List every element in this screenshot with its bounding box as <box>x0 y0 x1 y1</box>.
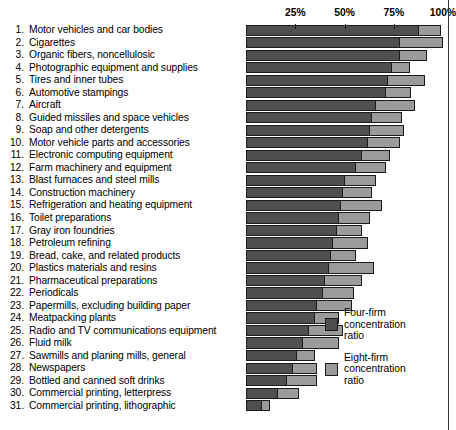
category-label: Farm machinery and equipment <box>29 162 172 174</box>
category-number: 13. <box>0 174 29 186</box>
category-label: Construction machinery <box>29 187 135 199</box>
bar-four-firm <box>246 400 262 411</box>
category-number: 24. <box>0 312 29 324</box>
category-number: 27. <box>0 350 29 362</box>
category-number: 16. <box>0 212 29 224</box>
bar-four-firm <box>246 87 386 98</box>
bar-row <box>246 249 443 262</box>
category-label-row: 28.Newspapers <box>0 362 240 375</box>
category-label-row: 23.Papermills, excluding building paper <box>0 299 240 312</box>
bar-four-firm <box>246 363 293 374</box>
bar-four-firm <box>246 275 325 286</box>
category-label-row: 16.Toilet preparations <box>0 212 240 225</box>
category-number: 26. <box>0 337 29 349</box>
bar-row <box>246 124 443 137</box>
bar-four-firm <box>246 75 388 86</box>
category-number: 30. <box>0 387 29 399</box>
bar-four-firm <box>246 287 323 298</box>
category-label-row: 20.Plastics materials and resins <box>0 262 240 275</box>
category-label: Bread, cake, and related products <box>29 250 180 262</box>
bar-row <box>246 212 443 225</box>
category-label: Motor vehicles and car bodies <box>29 24 163 36</box>
bar-row <box>246 74 443 87</box>
category-label-row: 19.Bread, cake, and related products <box>0 249 240 262</box>
legend-label: Four-firm concentration ratio <box>344 307 406 342</box>
bar-four-firm <box>246 337 303 348</box>
category-number: 18. <box>0 237 29 249</box>
bar-row <box>246 49 443 62</box>
category-number: 3. <box>0 49 29 61</box>
category-number: 1. <box>0 24 29 36</box>
bar-four-firm <box>246 100 376 111</box>
bar-four-firm <box>246 162 356 173</box>
category-label-row: 6.Automotive stampings <box>0 87 240 100</box>
category-label: Commercial printing, letterpress <box>29 387 171 399</box>
category-label-row: 22.Periodicals <box>0 287 240 300</box>
category-label: Gray iron foundries <box>29 225 115 237</box>
category-label-row: 13.Blast furnaces and steel mills <box>0 174 240 187</box>
bar-four-firm <box>246 50 400 61</box>
bar-four-firm <box>246 212 339 223</box>
axis-tick-label: 100% <box>430 6 456 19</box>
category-label: Blast furnaces and steel mills <box>29 174 159 186</box>
category-label: Motor vehicle parts and accessories <box>29 137 190 149</box>
category-number: 2. <box>0 37 29 49</box>
category-label: Periodicals <box>29 287 78 299</box>
bar-four-firm <box>246 187 343 198</box>
category-number: 5. <box>0 74 29 86</box>
category-label-row: 15.Refrigeration and heating equipment <box>0 199 240 212</box>
bar-row <box>246 399 443 412</box>
axis-tick-label: 75% <box>383 6 404 19</box>
bar-four-firm <box>246 62 392 73</box>
bar-four-firm <box>246 388 278 399</box>
category-label: Sawmills and planing mills, general <box>29 350 186 362</box>
category-label-row: 4.Photographic equipment and supplies <box>0 62 240 75</box>
category-label-row: 8.Guided missiles and space vehicles <box>0 112 240 125</box>
bar-four-firm <box>246 37 400 48</box>
category-label: Soap and other detergents <box>29 124 148 136</box>
bar-row <box>246 237 443 250</box>
category-number: 21. <box>0 275 29 287</box>
bar-row <box>246 199 443 212</box>
category-number: 15. <box>0 199 29 211</box>
category-number: 28. <box>0 362 29 374</box>
category-label-row: 18.Petroleum refining <box>0 237 240 250</box>
category-number: 8. <box>0 112 29 124</box>
category-number: 12. <box>0 162 29 174</box>
bar-row <box>246 87 443 100</box>
category-label: Plastics materials and resins <box>29 262 157 274</box>
category-label: Toilet preparations <box>29 212 111 224</box>
category-label: Cigarettes <box>29 37 75 49</box>
category-label-row: 9.Soap and other detergents <box>0 124 240 137</box>
category-label: Guided missiles and space vehicles <box>29 112 189 124</box>
legend-entry: Four-firm concentration ratio <box>325 307 445 342</box>
axis-tick-mark <box>295 24 296 29</box>
category-label: Automotive stampings <box>29 87 128 99</box>
x-axis: 25%50%75%100% <box>0 6 455 22</box>
category-label: Newspapers <box>29 362 85 374</box>
category-label-row: 5.Tires and inner tubes <box>0 74 240 87</box>
category-number: 7. <box>0 99 29 111</box>
category-label-row: 21.Pharmaceutical preparations <box>0 274 240 287</box>
category-number: 20. <box>0 262 29 274</box>
category-label-row: 27.Sawmills and planing mills, general <box>0 349 240 362</box>
bar-four-firm <box>246 350 297 361</box>
category-label: Fluid milk <box>29 337 71 349</box>
category-number: 31. <box>0 400 29 412</box>
chart-legend: Four-firm concentration ratioEight-firm … <box>325 307 445 397</box>
category-label-row: 24.Meatpacking plants <box>0 312 240 325</box>
bar-row <box>246 62 443 75</box>
bar-row <box>246 187 443 200</box>
category-number: 11. <box>0 149 29 161</box>
category-label-row: 7.Aircraft <box>0 99 240 112</box>
legend-entry: Eight-firm concentration ratio <box>325 352 445 387</box>
category-label: Pharmaceutical preparations <box>29 275 157 287</box>
bar-four-firm <box>246 262 329 273</box>
category-label-row: 1.Motor vehicles and car bodies <box>0 24 240 37</box>
category-number: 25. <box>0 325 29 337</box>
bar-four-firm <box>246 200 341 211</box>
bar-row <box>246 137 443 150</box>
category-number: 14. <box>0 187 29 199</box>
axis-tick-mark <box>394 24 395 29</box>
